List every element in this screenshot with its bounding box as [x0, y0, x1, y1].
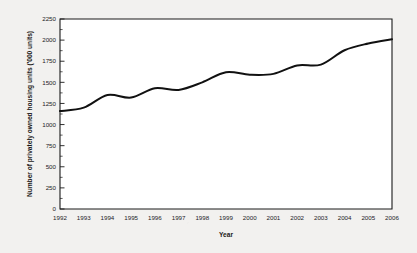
y-axis-tick-label: 1500: [42, 79, 56, 86]
y-axis-tick-label: 1250: [42, 100, 56, 107]
x-axis-tick-label: 1995: [124, 214, 138, 221]
y-axis-tick-label: 500: [46, 163, 57, 170]
y-axis-tick-labels: 0250500750100012501500175020002250: [42, 15, 56, 212]
y-axis-tick-label: 2000: [42, 36, 56, 43]
x-axis-tick-label: 2000: [243, 214, 257, 221]
x-axis-tick-label: 1993: [77, 214, 91, 221]
line-chart-figure: 0250500750100012501500175020002250 19921…: [0, 0, 417, 253]
y-axis-tick-label: 1000: [42, 121, 56, 128]
x-axis-tick-label: 1996: [148, 214, 162, 221]
chart-screenshot: 0250500750100012501500175020002250 19921…: [0, 0, 417, 253]
x-axis-tick-label: 2002: [290, 214, 304, 221]
x-axis-tick-label: 2004: [338, 214, 352, 221]
x-axis-title: Year: [219, 231, 233, 238]
y-axis-tick-label: 750: [46, 142, 57, 149]
x-axis-tick-label: 1994: [101, 214, 115, 221]
y-axis-tick-label: 2250: [42, 15, 56, 22]
x-axis-tick-label: 2001: [267, 214, 281, 221]
x-axis-tick-labels: 1992199319941995199619971998199920002001…: [53, 214, 399, 221]
y-axis-title: Number of privately owned housing units …: [26, 31, 34, 197]
x-axis-tick-label: 1998: [195, 214, 209, 221]
x-axis-tick-label: 2006: [385, 214, 399, 221]
chart-canvas: 0250500750100012501500175020002250 19921…: [0, 0, 417, 253]
x-axis-tick-label: 2003: [314, 214, 328, 221]
x-axis-tick-label: 1999: [219, 214, 233, 221]
plot-area-background: [60, 19, 392, 209]
x-axis-tick-label: 1997: [172, 214, 186, 221]
y-axis-tick-label: 250: [46, 184, 57, 191]
y-axis-tick-label: 1750: [42, 57, 56, 64]
x-axis-tick-label: 1992: [53, 214, 67, 221]
x-axis-tick-label: 2005: [361, 214, 375, 221]
y-axis-tick-label: 0: [53, 205, 57, 212]
